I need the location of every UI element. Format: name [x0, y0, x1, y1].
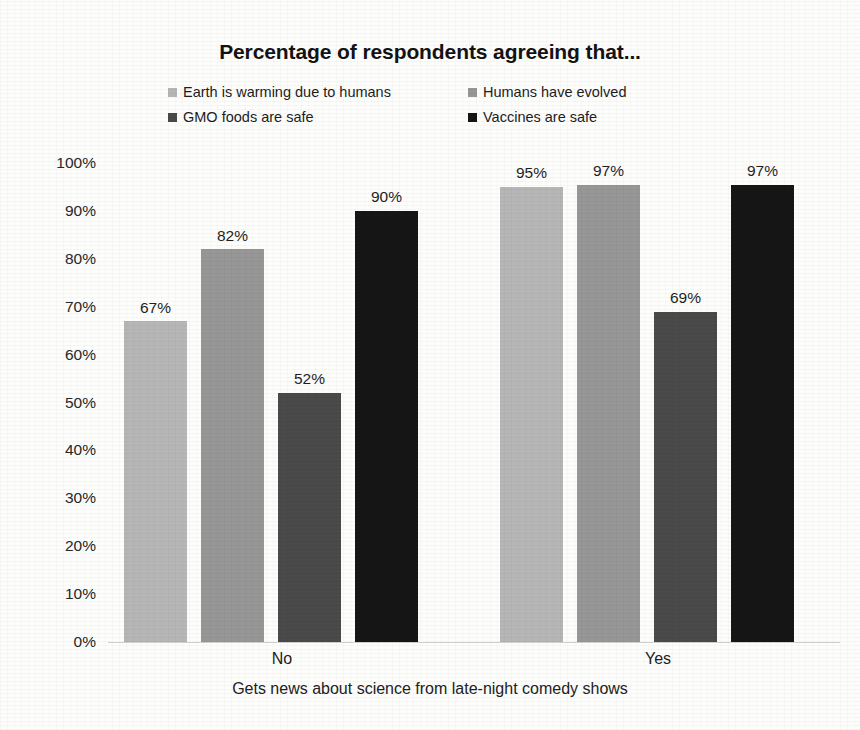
bar-slot: 69%	[654, 163, 717, 642]
bar-value-label: 90%	[371, 189, 402, 205]
bar-earth-is-warming-due-to-humans-no	[124, 321, 187, 642]
legend-label: Vaccines are safe	[483, 109, 597, 125]
y-axis-tick: 80%	[30, 250, 96, 268]
x-axis-category-no: No	[192, 650, 372, 668]
y-axis-tick: 40%	[30, 441, 96, 459]
legend-label: GMO foods are safe	[183, 109, 314, 125]
legend-item-gmo-foods-are-safe: GMO foods are safe	[168, 109, 468, 125]
bar-chart: Percentage of respondents agreeing that.…	[0, 0, 860, 730]
legend-item-vaccines-are-safe: Vaccines are safe	[468, 109, 728, 125]
y-axis-tick: 20%	[30, 537, 96, 555]
legend-label: Humans have evolved	[483, 84, 626, 100]
x-axis-line	[108, 642, 840, 643]
plot-area: 67% 82% 52% 90% 95% 97%	[108, 163, 836, 642]
bar-gmo-foods-are-safe-yes	[654, 312, 717, 643]
bar-earth-is-warming-due-to-humans-yes	[500, 187, 563, 642]
legend-item-humans-have-evolved: Humans have evolved	[468, 84, 728, 100]
legend-swatch-icon	[468, 113, 477, 122]
bar-slot: 95%	[500, 163, 563, 642]
bar-value-label: 52%	[294, 371, 325, 387]
y-axis-tick: 30%	[30, 489, 96, 507]
legend-label: Earth is warming due to humans	[183, 84, 391, 100]
y-axis-tick: 90%	[30, 202, 96, 220]
chart-title: Percentage of respondents agreeing that.…	[0, 40, 860, 64]
bar-humans-have-evolved-yes	[577, 185, 640, 643]
legend-swatch-icon	[168, 88, 177, 97]
legend-item-earth-is-warming-due-to-humans: Earth is warming due to humans	[168, 84, 468, 100]
bar-value-label: 97%	[747, 163, 778, 179]
bar-vaccines-are-safe-yes	[731, 185, 794, 643]
bar-value-label: 67%	[140, 300, 171, 316]
bar-slot: 97%	[577, 163, 640, 642]
bar-slot: 90%	[355, 163, 418, 642]
bar-gmo-foods-are-safe-no	[278, 393, 341, 642]
x-axis-title: Gets news about science from late-night …	[0, 680, 860, 698]
legend-swatch-icon	[168, 113, 177, 122]
bar-group-yes: 95% 97% 69% 97%	[500, 163, 810, 642]
y-axis-tick: 70%	[30, 298, 96, 316]
bar-group-no: 67% 82% 52% 90%	[124, 163, 434, 642]
bar-slot: 52%	[278, 163, 341, 642]
bar-humans-have-evolved-no	[201, 249, 264, 642]
y-axis-tick: 0%	[30, 633, 96, 651]
x-axis-category-yes: Yes	[568, 650, 748, 668]
bar-value-label: 69%	[670, 290, 701, 306]
bar-slot: 97%	[731, 163, 794, 642]
legend-swatch-icon	[468, 88, 477, 97]
bar-slot: 82%	[201, 163, 264, 642]
y-axis-tick: 50%	[30, 394, 96, 412]
x-axis-categories: No Yes	[108, 650, 836, 676]
y-axis: 100% 90% 80% 70% 60% 50% 40% 30% 20% 10%…	[30, 163, 96, 642]
y-axis-tick: 10%	[30, 585, 96, 603]
bar-vaccines-are-safe-no	[355, 211, 418, 642]
bar-value-label: 97%	[593, 163, 624, 179]
bar-slot: 67%	[124, 163, 187, 642]
chart-legend: Earth is warming due to humans Humans ha…	[168, 84, 728, 125]
y-axis-tick: 60%	[30, 346, 96, 364]
y-axis-tick: 100%	[30, 154, 96, 172]
bar-value-label: 82%	[217, 228, 248, 244]
bar-value-label: 95%	[516, 165, 547, 181]
